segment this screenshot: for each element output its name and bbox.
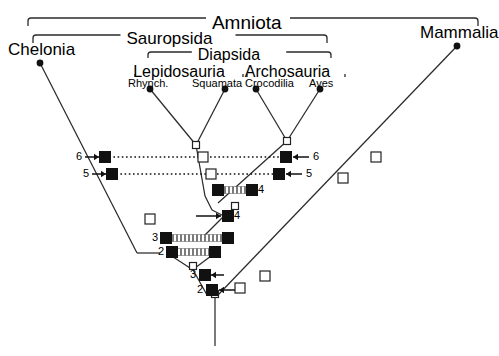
- tie-tie-node3: [168, 235, 228, 242]
- open-node-o-mam-mid: [260, 271, 270, 281]
- taxon-label-rhynch: Rhynch.: [128, 78, 168, 89]
- bracket-label-diapsida: Diapsida: [198, 47, 260, 63]
- branch-node4-down: [203, 216, 224, 237]
- solid-node-s-right-2: [210, 247, 221, 258]
- marker-number-m5-left: 5: [83, 168, 89, 179]
- taxon-label-squamata: Squamata: [192, 78, 242, 89]
- marker-number-m3-stem: 3: [190, 269, 196, 280]
- taxon-label-chelonia: Chelonia: [8, 41, 75, 58]
- marker-number-m2-bar: 2: [158, 246, 164, 257]
- solid-node-s-stem-2: [207, 285, 218, 296]
- taxon-label-crocodilia: Crocodilia: [245, 78, 294, 89]
- taxon-label-mammalia: Mammalia: [420, 24, 498, 41]
- arrow-m5-left: [92, 171, 106, 177]
- solid-node-s-left-2: [167, 247, 178, 258]
- arrow-m4-mid: [196, 213, 221, 219]
- cladogram-figure: AmniotaSauropsidaDiapsidaLepidosauriaArc…: [0, 0, 499, 356]
- solid-node-s-stem-3: [200, 270, 211, 281]
- tie-tie-node2: [172, 249, 215, 256]
- branch-crocodilia-stem: [256, 89, 287, 141]
- tip-dot-mammalia: [454, 43, 461, 50]
- tip-dot-chelonia: [37, 60, 44, 67]
- bracket-label-amniota: Amniota: [212, 13, 282, 32]
- open-node-o-mam-up1: [338, 173, 348, 183]
- open-node-o-left-3: [145, 214, 155, 224]
- open-node-o-lepido-5: [206, 169, 216, 179]
- marker-number-m3-bar: 3: [152, 232, 158, 243]
- marker-number-m5-right: 5: [306, 168, 312, 179]
- solid-node-s-lepido-4: [213, 185, 224, 196]
- marker-number-m6-right: 6: [313, 151, 319, 162]
- marker-number-m2-stem: 2: [197, 284, 203, 295]
- solid-node-s-left-3: [161, 233, 172, 244]
- open-node-o-mam-low: [235, 283, 245, 293]
- solid-node-s-right-3: [223, 233, 234, 244]
- solid-node-s-chelonia-5: [107, 169, 118, 180]
- marker-number-m6-left: 6: [76, 151, 82, 162]
- open-node-o-archo-crown: [284, 138, 291, 145]
- branch-aves-stem: [287, 89, 320, 141]
- bracket-label-sauropsida: Sauropsida: [127, 30, 213, 47]
- solid-node-s-archo-6: [281, 152, 292, 163]
- branch-rhynch-stem: [150, 89, 196, 145]
- arrow-m5-right: [286, 171, 302, 177]
- solid-node-s-chelonia-6: [100, 152, 111, 163]
- open-node-o-mam-up2: [371, 152, 381, 162]
- tie-bar-group: [105, 157, 286, 256]
- open-node-o-lepido-crown: [193, 142, 200, 149]
- branch-chelonia-stem: [40, 63, 137, 253]
- solid-node-s-archo-4: [247, 185, 258, 196]
- marker-number-m4-mid: 4: [234, 210, 240, 221]
- branch-squamata-stem: [196, 89, 225, 145]
- arrow-m6-right: [293, 154, 309, 160]
- taxon-label-aves: Aves: [309, 78, 333, 89]
- marker-number-m4-archo: 4: [258, 184, 264, 195]
- arrow-m3-stem: [211, 272, 224, 278]
- branch-diapsid-stem: [205, 196, 212, 210]
- solid-node-s-mid-4: [223, 211, 234, 222]
- open-node-o-lepido-6: [198, 152, 208, 162]
- solid-node-s-archo-5: [274, 169, 285, 180]
